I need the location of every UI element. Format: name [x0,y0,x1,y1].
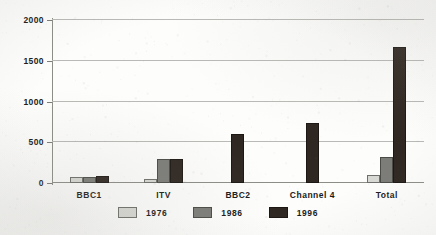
legend-item: 1996 [269,207,318,218]
x-tick-label: BBC2 [225,190,250,200]
x-tick-label: Channel 4 [290,190,335,200]
bar [144,179,157,183]
bar-group [52,20,126,183]
legend-item: 1976 [118,207,167,218]
bar [231,134,244,183]
bar-group [201,20,275,183]
bar-group [275,20,349,183]
legend-label: 1976 [146,208,167,218]
legend-label: 1986 [221,208,242,218]
bar [70,177,83,183]
y-tick-label: 1500 [2,56,44,66]
x-tick-label: BBC1 [77,190,102,200]
bar-group [350,20,424,183]
y-tick-label: 2000 [2,15,44,25]
y-tick-label: 0 [2,178,44,188]
legend-label: 1996 [297,208,318,218]
bar [367,175,380,183]
bar [96,176,109,183]
y-tick-mark [47,183,52,184]
y-tick-label: 500 [2,137,44,147]
legend-item: 1986 [193,207,242,218]
legend-swatch [269,207,288,218]
legend-swatch [118,207,137,218]
bar-chart: 0500100015002000 BBC1ITVBBC2Channel 4Tot… [0,0,436,235]
bar [393,47,406,183]
bar [83,177,96,183]
chart-legend: 197619861996 [0,207,436,218]
y-tick-label: 1000 [2,97,44,107]
legend-swatch [193,207,212,218]
bar [380,157,393,183]
x-tick-label: ITV [156,190,171,200]
x-tick-label: Total [376,190,398,200]
bar [170,159,183,183]
bar-group [126,20,200,183]
bar [157,159,170,183]
plot-area [52,20,424,183]
bar [306,123,319,183]
